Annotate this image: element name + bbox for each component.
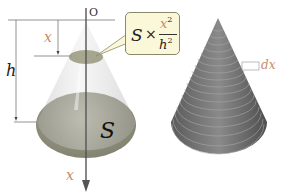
depth-label: x	[44, 30, 52, 44]
axis-x-label: x	[66, 168, 74, 182]
x-axis-arrowhead	[82, 180, 90, 192]
cone-volume-diagram: O h x x S S × x2 h2 dx	[0, 0, 283, 194]
callout-coefficient: S	[131, 25, 143, 45]
numerator-exponent: 2	[167, 15, 172, 24]
left-cone-figure	[8, 8, 136, 192]
callout-denominator: h2	[159, 36, 172, 52]
cross-section-area-callout: S × x2 h2	[125, 12, 180, 55]
height-arrowhead	[15, 117, 18, 121]
stacked-cone-figure	[171, 18, 267, 154]
height-label: h	[6, 63, 16, 79]
origin-label: O	[89, 7, 98, 18]
denominator-exponent: 2	[167, 36, 172, 45]
slice-thickness-label: dx	[261, 59, 275, 71]
fraction-bar	[159, 34, 177, 35]
slice-thickness-marker	[242, 62, 259, 70]
callout-numerator: x2	[160, 15, 172, 31]
stacked-cone-body	[171, 18, 267, 154]
depth-arrowhead	[57, 51, 60, 55]
base-area-label: S	[100, 120, 115, 142]
callout-operator: ×	[145, 26, 157, 42]
